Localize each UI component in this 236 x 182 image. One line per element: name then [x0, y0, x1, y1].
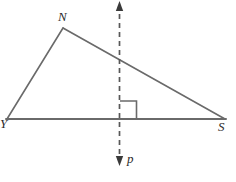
segment-ns: [63, 28, 225, 119]
segment-yn: [7, 28, 63, 119]
vertex-label-s: S: [218, 120, 225, 133]
geometry-figure: N Y S p: [0, 0, 236, 182]
geometry-canvas: [0, 0, 236, 182]
vertex-label-n: N: [58, 10, 67, 23]
arrowhead-down-icon: [116, 156, 123, 166]
right-angle-marker-icon: [120, 101, 137, 119]
vertex-label-y: Y: [0, 117, 7, 130]
arrowhead-up-icon: [116, 1, 123, 11]
line-label-p: p: [127, 152, 134, 165]
